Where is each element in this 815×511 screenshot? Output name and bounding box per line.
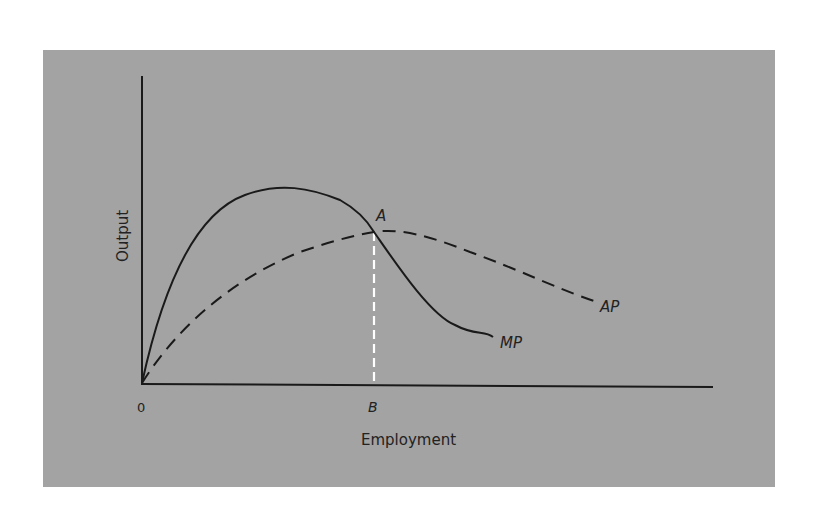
y-axis-label: Output [114,210,132,262]
ap-label: AP [599,298,620,316]
mp-curve [142,188,493,383]
mp-label: MP [500,334,523,352]
x-axis-label: Employment [361,431,456,449]
origin-tick-label: 0 [137,400,145,415]
point-a-label: A [375,207,386,225]
ap-curve [142,231,597,383]
x-axis [141,384,713,387]
b-tick-label: B [368,399,378,415]
production-chart: A AP MP 0 B Employment Output [0,0,815,511]
